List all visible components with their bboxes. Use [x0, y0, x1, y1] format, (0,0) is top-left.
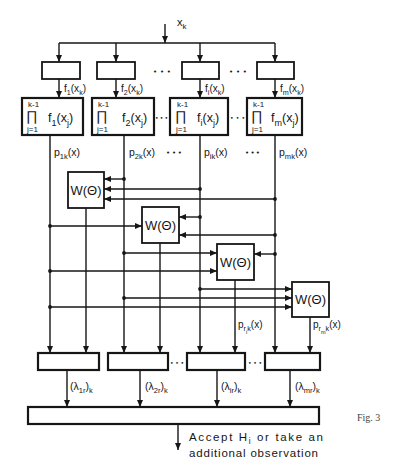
junction-dot-icon	[273, 197, 277, 201]
weight-block-label: W(Θ)	[145, 218, 176, 233]
ellipsis-icon: • • •	[153, 68, 171, 76]
density-evaluator-2	[97, 62, 135, 79]
junction-dot-icon	[273, 252, 277, 256]
junction-dot-icon	[48, 269, 52, 273]
weight-block-label: W(Θ)	[295, 292, 326, 307]
product-operator-icon: ∏	[175, 108, 187, 124]
product-block-2: k-1 ∏ j=1 f2(xj)	[92, 98, 154, 135]
product-lower-limit: j=1	[96, 125, 108, 134]
junction-dot-icon	[48, 305, 52, 309]
likelihood-ratio-block-2	[108, 353, 168, 370]
ellipsis-icon: • • •	[166, 149, 182, 157]
product-block-m: k-1 ∏ j=1 fm(xj)	[247, 98, 302, 135]
decision-output-text-line2: additional observation	[189, 447, 318, 459]
decision-block	[28, 407, 319, 424]
sequential-classifier-block-diagram: xk • • • • • • f1(xk) f2(xk) fi(xk) fm(x…	[0, 0, 404, 473]
junction-dot-icon	[198, 287, 202, 291]
product-lower-limit: j=1	[251, 125, 263, 134]
weight-block-label: W(Θ)	[70, 183, 101, 198]
product-operator-icon: ∏	[26, 108, 38, 124]
density-evaluator-1	[42, 62, 80, 79]
product-lower-limit: j=1	[175, 125, 187, 134]
density-evaluator-m	[257, 62, 294, 79]
junction-dot-icon	[122, 251, 126, 255]
ellipsis-icon: •••	[170, 359, 184, 366]
junction-dot-icon	[198, 187, 202, 191]
product-operator-icon: ∏	[251, 108, 263, 124]
figure-caption: Fig. 3	[357, 412, 380, 423]
product-lower-limit: j=1	[26, 125, 38, 134]
ellipsis-icon: • • •	[245, 149, 260, 157]
product-block-i: k-1 ∏ j=1 fi(xj)	[170, 98, 228, 135]
ellipsis-icon: •••	[155, 114, 168, 121]
likelihood-ratio-block-i	[187, 353, 245, 370]
product-operator-icon: ∏	[96, 108, 108, 124]
junction-dot-icon	[198, 215, 202, 219]
ellipsis-icon: •••	[230, 114, 245, 121]
product-block-1: k-1 ∏ j=1 f1(xj)	[22, 98, 83, 135]
ellipsis-icon: •••	[248, 359, 262, 366]
junction-dot-icon	[122, 177, 126, 181]
likelihood-ratio-block-m	[265, 353, 320, 370]
junction-dot-icon	[48, 224, 52, 228]
ellipsis-icon: • • •	[229, 68, 247, 76]
density-evaluator-i	[182, 62, 219, 79]
likelihood-ratio-block-1	[38, 353, 99, 370]
junction-dot-icon	[122, 296, 126, 300]
junction-dot-icon	[273, 233, 277, 237]
weight-block-label: W(Θ)	[220, 255, 251, 270]
